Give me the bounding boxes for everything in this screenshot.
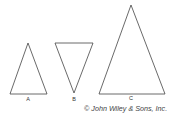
triangle-c-label: C (129, 95, 133, 101)
triangle-c (99, 5, 165, 94)
triangle-a (10, 43, 47, 94)
triangles-diagram: A B C (0, 0, 173, 118)
triangle-b-label: B (72, 96, 76, 102)
copyright-credit: © John Wiley & Sons, Inc. (84, 104, 167, 113)
triangle-a-label: A (26, 96, 30, 102)
triangle-b (55, 43, 93, 93)
